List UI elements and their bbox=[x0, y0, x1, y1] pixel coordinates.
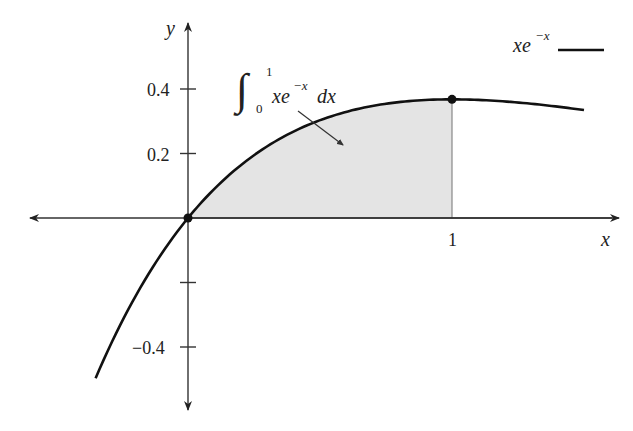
integral-sign: ∫ bbox=[233, 65, 251, 116]
legend-label-exponent: −x bbox=[535, 28, 550, 43]
integral-annotation: ∫ 1 0 xe −x dx bbox=[233, 64, 343, 145]
y-tick-label-neg-0.4: −0.4 bbox=[132, 338, 165, 358]
legend: xe −x bbox=[512, 28, 604, 56]
point-x1 bbox=[448, 95, 457, 104]
y-tick-label-0.2: 0.2 bbox=[147, 145, 170, 165]
y-tick-label-0.4: 0.4 bbox=[147, 80, 170, 100]
shaded-area bbox=[188, 99, 452, 218]
integral-upper-limit: 1 bbox=[266, 64, 273, 79]
chart: y x 1 0.4 0.2 −0.4 ∫ 1 0 xe −x dx xe −x bbox=[0, 0, 633, 431]
integrand-dx: dx bbox=[317, 85, 336, 107]
x-axis-label: x bbox=[600, 228, 610, 250]
x-tick-label-1: 1 bbox=[448, 230, 457, 250]
integral-lower-limit: 0 bbox=[256, 101, 263, 116]
integrand-exponent: −x bbox=[293, 78, 308, 93]
integrand-base: xe bbox=[271, 85, 290, 107]
legend-label-base: xe bbox=[512, 34, 531, 56]
y-axis-label: y bbox=[164, 17, 175, 40]
origin-point bbox=[184, 214, 193, 223]
